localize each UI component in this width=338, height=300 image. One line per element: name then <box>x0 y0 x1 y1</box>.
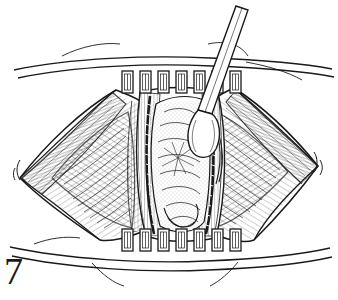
retractor-clip <box>140 71 151 93</box>
retractor-clip <box>176 229 187 251</box>
retractor-clip <box>122 229 133 251</box>
retractor-clip <box>194 229 205 251</box>
retractor-clip <box>230 71 241 93</box>
retractor-clip <box>230 229 241 251</box>
figure-container: 7 <box>0 0 338 300</box>
retractor-clip <box>122 71 133 93</box>
retractor-clip <box>194 71 205 93</box>
surgical-illustration <box>0 0 338 300</box>
retractor-clip <box>212 229 223 251</box>
lower-retractor-clip-row <box>122 229 241 251</box>
retractor-clip <box>140 229 151 251</box>
retractor-clip <box>158 71 169 93</box>
retractor-clip <box>176 71 187 93</box>
figure-number-label: 7 <box>4 252 23 290</box>
retractor-clip <box>158 229 169 251</box>
